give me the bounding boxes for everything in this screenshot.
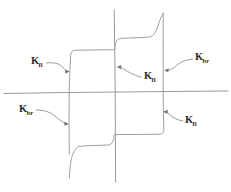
leader-line-top-left: [47, 63, 69, 72]
label-bottom-right-subscript: fl: [193, 120, 197, 127]
label-top-right: K br: [195, 51, 209, 64]
arrowhead-top-right: [164, 68, 169, 72]
label-inner-right-subscript: fl: [152, 76, 156, 83]
leader-line-top-right: [166, 59, 193, 70]
leader-line-inner-right: [118, 67, 141, 77]
hysteresis-diagram-canvas: K fl K br K fl K br K fl: [0, 0, 231, 192]
hysteresis-figure: K fl K br K fl K br K fl: [0, 0, 231, 192]
lower-branch-curve: [69, 13, 164, 178]
arrowhead-bottom-left: [64, 122, 69, 126]
label-top-left-subscript: fl: [39, 61, 43, 68]
hysteresis-loop-group: [69, 13, 164, 178]
leader-line-bottom-left: [36, 110, 67, 124]
label-inner-right: K fl: [144, 70, 156, 83]
label-top-left: K fl: [31, 55, 43, 68]
label-bottom-right: K fl: [185, 114, 197, 127]
arrowhead-inner-right: [117, 65, 122, 69]
vertical-axis: [114, 10, 115, 182]
label-top-right-subscript: br: [203, 57, 210, 64]
upper-branch-curve: [69, 13, 163, 154]
label-bottom-left-subscript: br: [27, 109, 34, 116]
axes-group: [4, 10, 228, 182]
horizontal-axis: [4, 91, 228, 94]
label-bottom-left: K br: [19, 103, 33, 116]
arrowhead-top-left: [65, 70, 70, 74]
